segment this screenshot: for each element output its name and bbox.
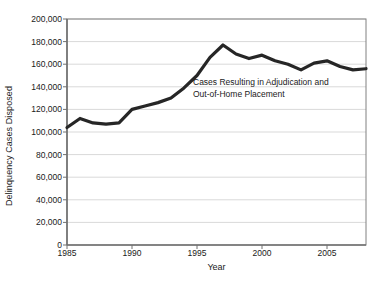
y-axis-tick-label: 120,000 [14,104,62,114]
y-axis-tick-label: 160,000 [14,59,62,69]
x-axis-tick-label: 1985 [37,248,97,258]
y-axis-tick-label: 60,000 [14,172,62,182]
y-axis-tick-label: 20,000 [14,217,62,227]
y-axis-tick-label: 80,000 [14,150,62,160]
x-axis-tick-label: 2000 [232,248,292,258]
y-axis-tick-label: 40,000 [14,195,62,205]
series-annotation: Cases Resulting in Adjudication and Out-… [193,77,329,100]
x-axis-tick-label: 1990 [102,248,162,258]
y-axis-tick-label: 100,000 [14,127,62,137]
x-axis-tick-label: 1995 [167,248,227,258]
y-axis-tick-label: 140,000 [14,82,62,92]
y-axis-tick-label: 200,000 [14,14,62,24]
y-axis-tick-label: 180,000 [14,37,62,47]
chart-figure: Delinquency Cases Disposed 020,00040,000… [0,0,380,292]
x-axis-tick-label: 2005 [297,248,357,258]
x-axis-title: Year [67,262,366,272]
